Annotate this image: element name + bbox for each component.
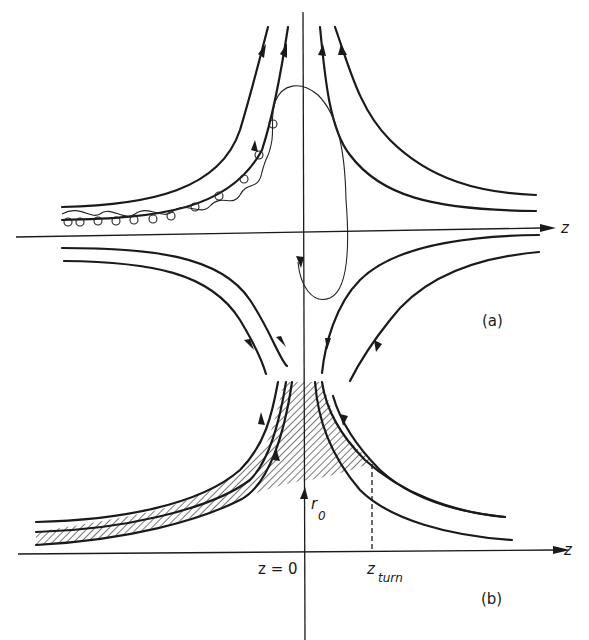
- r-axis: [303, 12, 305, 640]
- orbit-arrow: [296, 256, 304, 268]
- field-line-b-left-outer: [36, 382, 278, 522]
- particle-orbit: [62, 86, 348, 300]
- panel-b-label: (b): [481, 590, 502, 608]
- arrow-ll-outer: [276, 336, 286, 347]
- field-line-ur-inner: [320, 27, 536, 211]
- z-axis-a-arrowhead: [540, 224, 556, 232]
- panel-a: z (a): [16, 12, 570, 640]
- arrow-lr-outer: [374, 340, 382, 352]
- field-diagram: z (a) r 0 z z = 0 z turn (b): [0, 0, 589, 640]
- field-line-lr-outer: [350, 252, 539, 381]
- z-axis-b-label: z: [563, 541, 573, 559]
- r0-subscript: 0: [318, 509, 326, 523]
- arrow-b-left-outer: [258, 412, 265, 425]
- z-axis-a-label: z: [560, 219, 570, 237]
- field-line-ur-outer: [335, 27, 536, 195]
- arrow-ur-outer: [338, 44, 347, 55]
- z-turn-label: z: [366, 560, 376, 578]
- r0-label: r: [311, 495, 318, 513]
- z-turn-subscript: turn: [378, 571, 403, 585]
- orbit-arrow-left: [251, 140, 258, 152]
- z-axis-b: [18, 550, 555, 554]
- arrow-ul-inner: [280, 43, 287, 58]
- z-axis-a: [16, 228, 540, 237]
- field-line-ll-inner: [64, 261, 266, 374]
- panel-a-label: (a): [482, 312, 503, 330]
- z-origin-label: z = 0: [258, 560, 298, 578]
- panel-b: r 0 z z = 0 z turn (b): [18, 382, 573, 608]
